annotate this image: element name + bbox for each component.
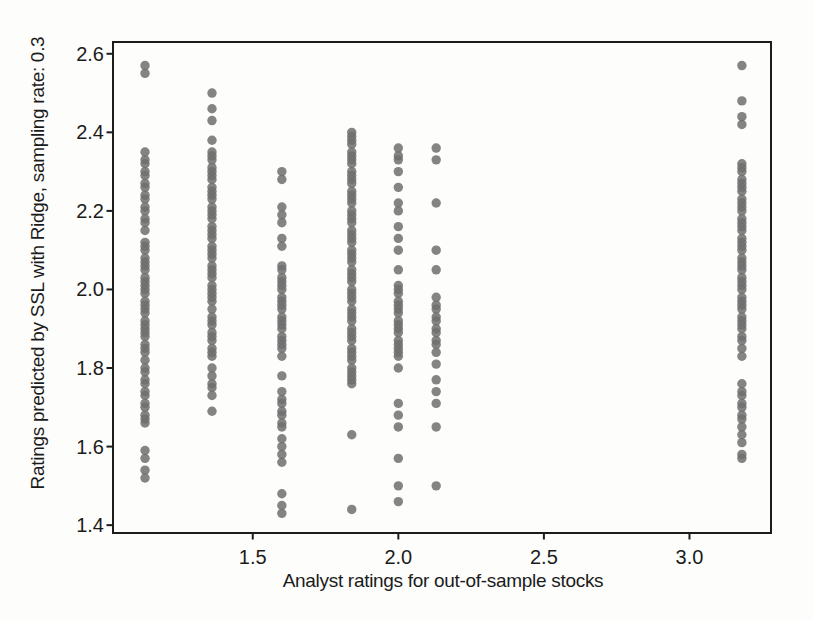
data-point bbox=[394, 352, 403, 361]
data-point bbox=[431, 387, 440, 396]
data-point bbox=[394, 206, 403, 215]
data-point bbox=[207, 104, 216, 113]
data-point bbox=[394, 234, 403, 243]
x-tick-label: 1.5 bbox=[239, 547, 267, 567]
x-axis-label: Analyst ratings for out-of-sample stocks bbox=[283, 570, 604, 592]
data-point bbox=[277, 218, 286, 227]
data-point bbox=[737, 61, 746, 70]
data-point bbox=[394, 222, 403, 231]
data-point bbox=[207, 407, 216, 416]
data-point bbox=[431, 198, 440, 207]
data-point bbox=[394, 422, 403, 431]
data-point bbox=[277, 458, 286, 467]
x-tick-label: 2.5 bbox=[530, 547, 558, 567]
data-point bbox=[431, 422, 440, 431]
data-point bbox=[431, 143, 440, 152]
y-tick-label: 2.6 bbox=[44, 44, 104, 64]
data-point bbox=[140, 418, 149, 427]
data-point bbox=[394, 167, 403, 176]
data-point bbox=[394, 481, 403, 490]
data-point bbox=[140, 454, 149, 463]
data-point bbox=[431, 359, 440, 368]
data-point bbox=[394, 454, 403, 463]
data-point bbox=[394, 183, 403, 192]
data-point bbox=[347, 430, 356, 439]
data-point bbox=[431, 155, 440, 164]
y-tick-label: 2.4 bbox=[44, 122, 104, 142]
x-tick-label: 3.0 bbox=[676, 547, 704, 567]
data-point bbox=[394, 155, 403, 164]
data-point bbox=[277, 242, 286, 251]
data-point bbox=[394, 363, 403, 372]
data-point bbox=[207, 391, 216, 400]
data-point bbox=[140, 473, 149, 482]
data-point bbox=[431, 375, 440, 384]
data-point bbox=[394, 410, 403, 419]
data-point bbox=[140, 69, 149, 78]
data-point bbox=[277, 422, 286, 431]
data-point bbox=[737, 120, 746, 129]
y-tick-label: 1.8 bbox=[44, 358, 104, 378]
data-point bbox=[347, 505, 356, 514]
x-tick-label: 2.0 bbox=[384, 547, 412, 567]
data-point bbox=[277, 371, 286, 380]
data-point bbox=[431, 348, 440, 357]
data-point bbox=[431, 481, 440, 490]
data-point bbox=[140, 226, 149, 235]
data-point bbox=[207, 136, 216, 145]
y-tick-label: 2.0 bbox=[44, 279, 104, 299]
data-point bbox=[207, 88, 216, 97]
data-point bbox=[431, 265, 440, 274]
y-tick-label: 1.6 bbox=[44, 437, 104, 457]
y-tick-label: 2.2 bbox=[44, 201, 104, 221]
data-point bbox=[277, 489, 286, 498]
data-point bbox=[277, 175, 286, 184]
data-point bbox=[347, 379, 356, 388]
y-tick-label: 1.4 bbox=[44, 515, 104, 535]
data-point bbox=[277, 509, 286, 518]
y-axis-label: Ratings predicted by SSL with Ridge, sam… bbox=[27, 37, 49, 490]
data-point bbox=[207, 352, 216, 361]
data-point bbox=[394, 399, 403, 408]
scatter-plot-figure: Ratings predicted by SSL with Ridge, sam… bbox=[0, 0, 813, 620]
data-point bbox=[737, 454, 746, 463]
data-point bbox=[737, 352, 746, 361]
data-point bbox=[394, 265, 403, 274]
data-point bbox=[277, 352, 286, 361]
data-point bbox=[737, 438, 746, 447]
data-point bbox=[431, 399, 440, 408]
data-point bbox=[394, 497, 403, 506]
data-point bbox=[207, 116, 216, 125]
data-point bbox=[737, 96, 746, 105]
data-point bbox=[394, 245, 403, 254]
data-point bbox=[431, 245, 440, 254]
plot-canvas bbox=[0, 0, 813, 620]
